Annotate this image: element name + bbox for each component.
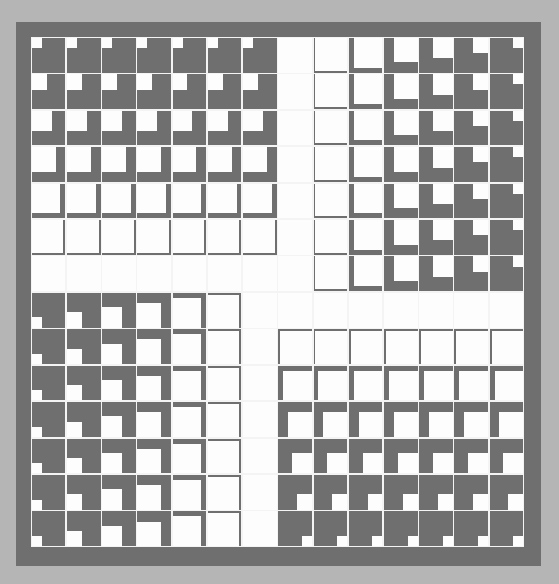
tile-white-square — [354, 38, 383, 68]
tile-white-square — [354, 147, 383, 177]
tile-top-left — [32, 256, 66, 291]
tile-bottom-right — [314, 329, 348, 364]
tile-top-right — [490, 38, 524, 73]
tile-top-right — [278, 74, 312, 109]
tile-bottom-right — [349, 402, 383, 437]
tile-bottom-right — [314, 366, 348, 401]
tile-bottom-left — [102, 511, 136, 546]
tile-top-right — [454, 74, 488, 109]
tile-bottom-left — [67, 329, 101, 364]
tile-bottom-right — [349, 511, 383, 546]
tile-bottom-right — [454, 293, 488, 328]
tile-top-right — [349, 256, 383, 291]
tile-top-right — [314, 147, 348, 182]
tile-white-square — [468, 453, 488, 473]
tile-bottom-right — [314, 293, 348, 328]
tile-bottom-left — [208, 511, 242, 546]
tile-white-square — [137, 339, 161, 364]
tile-bottom-right — [349, 475, 383, 510]
tile-top-left — [102, 38, 136, 73]
tile-white-square — [102, 38, 112, 48]
tile-top-left — [173, 256, 207, 291]
tile-bottom-left — [137, 475, 171, 510]
tile-white-square — [32, 390, 42, 400]
tile-top-right — [490, 220, 524, 255]
tile-white-square — [433, 453, 453, 473]
tile-white-square — [315, 38, 347, 71]
tile-bottom-left — [32, 439, 66, 474]
tile-top-right — [314, 38, 348, 73]
tile-white-square — [492, 331, 524, 364]
tile-bottom-left — [67, 402, 101, 437]
tile-white-square — [32, 38, 42, 48]
tile-top-right — [349, 220, 383, 255]
tile-bottom-left — [173, 511, 207, 546]
tile-white-square — [473, 38, 488, 53]
tile-top-left — [208, 74, 242, 109]
tile-bottom-right — [454, 329, 488, 364]
tile-top-left — [67, 184, 101, 219]
tile-bottom-left — [208, 329, 242, 364]
tile-white-square — [354, 256, 383, 286]
tile-top-right — [454, 220, 488, 255]
tile-bottom-left — [32, 475, 66, 510]
tile-top-right — [278, 184, 312, 219]
tile-bottom-right — [349, 439, 383, 474]
tile-white-square — [102, 526, 122, 546]
tile-top-left — [137, 147, 171, 182]
tile-top-left — [32, 74, 66, 109]
tile-bottom-right — [490, 511, 524, 546]
tile-top-left — [137, 74, 171, 109]
tile-bottom-right — [490, 329, 524, 364]
tile-white-square — [67, 349, 82, 364]
tile-top-right — [384, 38, 418, 73]
tile-white-square — [137, 111, 157, 131]
tile-white-square — [473, 184, 488, 199]
tile-bottom-left — [32, 366, 66, 401]
tile-white-square — [368, 494, 383, 509]
tile-white-square — [32, 317, 42, 327]
tile-top-right — [349, 74, 383, 109]
tile-bottom-right — [384, 439, 418, 474]
tile-white-square — [137, 522, 161, 547]
tile-bottom-left — [208, 475, 242, 510]
tile-white-square — [137, 74, 152, 89]
tile-top-left — [32, 184, 66, 219]
tile-bottom-right — [419, 293, 453, 328]
tile-white-square — [421, 331, 453, 364]
tile-bottom-left — [243, 329, 277, 364]
tile-bottom-left — [67, 439, 101, 474]
tile-white-square — [315, 184, 347, 217]
tile-white-square — [173, 74, 188, 89]
tile-bottom-right — [384, 293, 418, 328]
tile-white-square — [243, 111, 263, 131]
tile-top-left — [208, 38, 242, 73]
tile-bottom-left — [208, 439, 242, 474]
tile-white-square — [473, 147, 488, 162]
tile-bottom-right — [384, 511, 418, 546]
tile-white-square — [173, 220, 205, 253]
tile-white-square — [327, 453, 347, 473]
tile-white-square — [208, 220, 240, 253]
tile-top-right — [490, 256, 524, 291]
tile-top-right — [349, 38, 383, 73]
tile-white-square — [394, 111, 418, 136]
tile-top-left — [102, 256, 136, 291]
tile-top-left — [243, 256, 277, 291]
tile-white-square — [102, 184, 131, 214]
tile-white-square — [297, 494, 312, 509]
tile-white-square — [102, 489, 122, 509]
tile-top-right — [419, 111, 453, 146]
tile-white-square — [403, 494, 418, 509]
tile-white-square — [67, 147, 91, 172]
tile-white-square — [67, 111, 87, 131]
tile-bottom-left — [208, 366, 242, 401]
tile-bottom-left — [67, 475, 101, 510]
tile-white-square — [102, 74, 117, 89]
tile-white-square — [137, 449, 161, 474]
tile-bottom-right — [454, 475, 488, 510]
tile-white-square — [67, 531, 82, 546]
tile-white-square — [32, 147, 56, 172]
tile-top-left — [137, 184, 171, 219]
tile-bottom-left — [102, 293, 136, 328]
